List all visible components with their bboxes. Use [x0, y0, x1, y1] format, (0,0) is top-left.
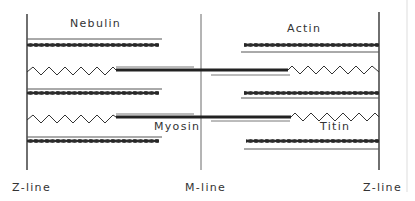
actin-filament-right-mid [244, 89, 379, 95]
label-actin: Actin [287, 22, 321, 35]
label-m-line: M-line [185, 181, 226, 194]
titin-zigzag-left-1 [27, 67, 116, 75]
actin-filament-left-bottom [27, 139, 159, 145]
label-nebulin: Nebulin [70, 17, 121, 30]
sarcomere-diagram [0, 0, 415, 201]
actin-filament-left-mid [27, 91, 159, 97]
actin-filament-left-top [27, 43, 159, 49]
titin-zigzag-left-2 [27, 115, 116, 123]
label-titin: Titin [320, 120, 350, 133]
label-myosin: Myosin [154, 120, 200, 133]
label-z-line-left: Z-line [12, 181, 51, 194]
actin-filament-right-bottom [246, 139, 379, 145]
titin-zigzag-right-1 [288, 66, 379, 74]
label-z-line-right: Z-line [363, 181, 402, 194]
actin-filament-right-top [244, 43, 379, 49]
